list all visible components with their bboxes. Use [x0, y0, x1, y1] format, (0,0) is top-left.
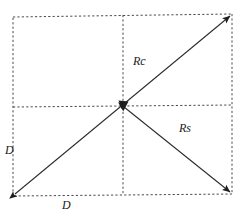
grid-edge-bottom	[13, 194, 232, 196]
diagram-svg	[0, 0, 244, 218]
diagram-canvas: Rc Rs D D	[0, 0, 244, 218]
label-d-horizontal: D	[62, 199, 71, 211]
label-rs: Rs	[179, 122, 191, 134]
arrow-rs	[124, 107, 230, 192]
label-rc: Rc	[133, 55, 146, 67]
label-d-vertical: D	[5, 144, 14, 156]
